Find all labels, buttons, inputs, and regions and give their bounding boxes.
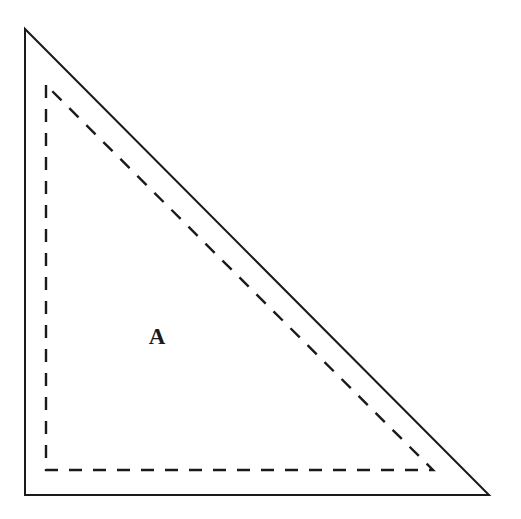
geometry-figure: A [0, 0, 521, 519]
region-a-label: A [149, 324, 166, 349]
canvas-background [0, 0, 521, 519]
diagram-canvas: A [0, 0, 521, 519]
